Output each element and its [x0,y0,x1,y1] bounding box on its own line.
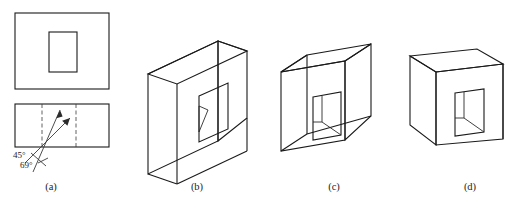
caption-d: (d) [464,181,477,193]
solid-c-top-face [281,44,371,72]
solid-b-hole-interior-diagonal [199,110,208,132]
view-arrow-head-1 [56,110,62,118]
view-arrow-line-2 [25,118,70,163]
panel-d: (d) [410,49,503,193]
solid-c-right-face [345,44,371,140]
top-view-outline [15,13,109,89]
solid-b-right-face [218,41,247,141]
solid-d-top-face [410,49,503,72]
solid-c-hole-opening [313,92,341,140]
technical-drawing-figure: 45° 69° (a) (b) [0,0,524,205]
solid-b-hole-opening [199,83,228,142]
panel-b: (b) [148,41,247,193]
drawing-canvas: 45° 69° (a) (b) [0,0,524,205]
solid-b-bottom-left-edge [148,174,177,184]
solid-d-hole-interior-diagonal [464,118,484,132]
caption-a: (a) [45,181,57,193]
panel-c: (c) [281,44,371,193]
solid-b-top-face [148,41,247,84]
solid-b-front-face [148,41,218,174]
angle-tick-45 [31,153,46,166]
solid-b-hole-interior-upper [199,106,208,110]
angle-label-45: 45° [13,150,26,160]
solid-d-front-face [436,64,503,145]
top-view-hole [49,32,77,72]
panel-a: 45° 69° (a) [13,13,109,193]
angle-label-69: 69° [20,160,33,170]
caption-b: (b) [191,181,204,193]
caption-c: (c) [328,181,340,193]
